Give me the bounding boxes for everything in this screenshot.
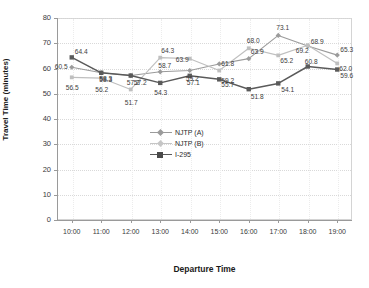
data-point-label: 56.2 [95,86,108,93]
y-tick-mark [54,43,57,44]
y-tick-label: 20 [29,166,51,174]
x-tick-mark [278,220,279,223]
legend-label-njtp-a: NJTP (A) [175,129,204,136]
y-tick-mark [54,195,57,196]
data-point-label: 57.1 [187,79,200,86]
y-tick-label: 30 [29,140,51,148]
y-tick-mark [54,94,57,95]
data-point-label: 57.2 [134,79,147,86]
data-point-label: 51.8 [251,93,264,100]
vertical-gridline [102,19,103,219]
data-point-label: 51.7 [125,99,138,106]
data-point-label: 55.7 [221,81,234,88]
x-tick-mark [337,220,338,223]
legend-item-njtp-b[interactable]: NJTP (B) [150,138,204,149]
data-point-label: 63.9 [251,48,264,55]
chart-legend: NJTP (A) NJTP (B) I-295 [150,127,204,160]
y-axis-line [57,18,58,220]
legend-key-njtp-a [150,129,172,137]
y-tick-label: 0 [29,216,51,224]
data-point-label: 54.3 [154,89,167,96]
vertical-gridline [338,19,339,219]
y-tick-mark [54,220,57,221]
data-point-label: 63.9 [176,56,189,63]
data-point-label: 68.9 [311,38,324,45]
data-point-label: 56.5 [66,84,79,91]
y-tick-label: 40 [29,115,51,123]
travel-time-line-chart: 01020304050607080 10:0011:0012:0013:0014… [0,0,369,288]
y-tick-label: 70 [29,39,51,47]
x-tick-mark [249,220,250,223]
legend-key-njtp-b [150,140,172,148]
data-point-label: 58.3 [99,76,112,83]
data-point-label: 60.8 [305,58,318,65]
data-point-label: 54.1 [281,86,294,93]
data-point-label: 58.7 [158,62,171,69]
y-axis-title: Travel Time (minutes) [1,40,10,160]
vertical-gridline [191,19,192,219]
data-point-label: 61.8 [221,60,234,67]
x-tick-label: 19:00 [317,228,357,235]
x-tick-mark [308,220,309,223]
vertical-gridline [132,19,133,219]
legend-label-njtp-b: NJTP (B) [175,140,204,147]
vertical-gridline [279,19,280,219]
x-tick-mark [160,220,161,223]
y-tick-mark [54,170,57,171]
x-tick-mark [190,220,191,223]
vertical-gridline [73,19,74,219]
y-tick-label: 80 [29,14,51,22]
data-point-label: 64.4 [75,48,88,55]
data-point-label: 65.3 [340,46,353,53]
y-tick-label: 60 [29,65,51,73]
y-tick-mark [54,18,57,19]
x-tick-mark [101,220,102,223]
x-tick-mark [131,220,132,223]
data-point-label: 64.3 [161,47,174,54]
legend-label-i295: I-295 [175,151,191,158]
data-point-label: 69.2 [296,47,309,54]
legend-item-njtp-a[interactable]: NJTP (A) [150,127,204,138]
y-tick-label: 10 [29,191,51,199]
y-tick-mark [54,144,57,145]
data-point-label: 60.5 [55,63,68,70]
y-tick-label: 50 [29,90,51,98]
x-tick-mark [72,220,73,223]
data-point-label: 65.2 [280,57,293,64]
data-point-label: 73.1 [276,24,289,31]
legend-key-i295 [150,151,172,159]
x-tick-mark [219,220,220,223]
y-tick-mark [54,119,57,120]
data-point-label: 68.0 [247,37,260,44]
legend-item-i295[interactable]: I-295 [150,149,204,160]
data-point-label: 59.6 [340,72,353,79]
x-axis-title: Departure Time [57,264,352,274]
vertical-gridline [220,19,221,219]
